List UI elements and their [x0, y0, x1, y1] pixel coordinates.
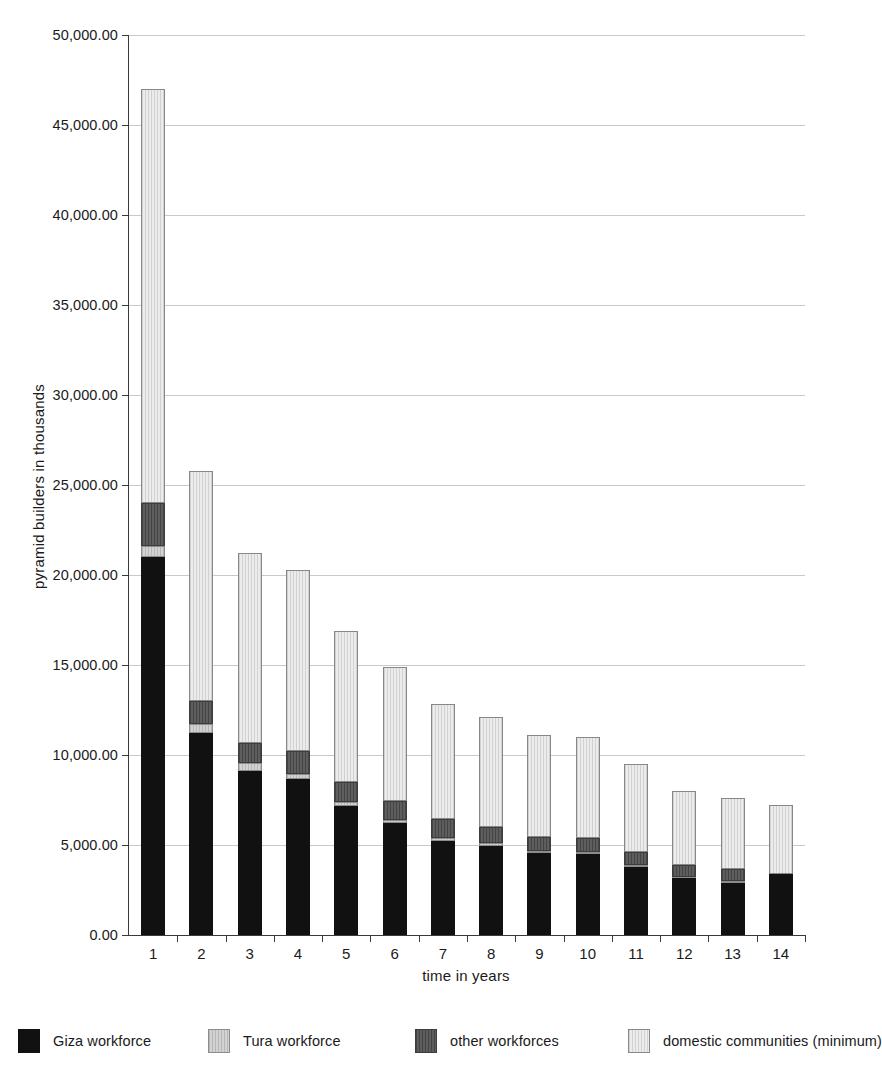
x-tick-label: 8: [487, 945, 495, 962]
bar-segment-domestic[interactable]: [141, 89, 165, 503]
bar-segment-giza[interactable]: [141, 557, 165, 935]
bar-column[interactable]: [431, 35, 455, 935]
bar-segment-giza[interactable]: [527, 853, 551, 935]
y-gridline: [129, 35, 805, 36]
bar-segment-giza[interactable]: [383, 823, 407, 935]
y-tick-mark: [122, 215, 129, 216]
bar-segment-domestic[interactable]: [334, 631, 358, 782]
bar-column[interactable]: [624, 35, 648, 935]
bar-column[interactable]: [721, 35, 745, 935]
y-gridline: [129, 755, 805, 756]
bar-segment-other[interactable]: [624, 852, 648, 865]
x-tick-mark: [515, 935, 516, 942]
other-swatch: [415, 1029, 437, 1053]
bar-segment-domestic[interactable]: [383, 667, 407, 801]
bar-segment-domestic[interactable]: [527, 735, 551, 837]
legend-label: Tura workforce: [243, 1033, 341, 1049]
bar-segment-tura[interactable]: [141, 546, 165, 557]
bar-segment-other[interactable]: [479, 827, 503, 843]
bar-column[interactable]: [334, 35, 358, 935]
bar-segment-giza[interactable]: [672, 878, 696, 935]
x-tick-mark: [419, 935, 420, 942]
bar-segment-giza[interactable]: [286, 779, 310, 935]
legend-item[interactable]: other workforces: [415, 1024, 559, 1058]
bar-segment-domestic[interactable]: [479, 717, 503, 827]
bar-segment-giza[interactable]: [576, 854, 600, 935]
bar-segment-domestic[interactable]: [189, 471, 213, 701]
bar-segment-other[interactable]: [383, 801, 407, 820]
bar-segment-giza[interactable]: [479, 846, 503, 935]
bar-segment-domestic[interactable]: [769, 805, 793, 873]
bar-segment-giza[interactable]: [721, 883, 745, 935]
bar-segment-domestic[interactable]: [238, 553, 262, 743]
legend-label: domestic communities (minimum): [663, 1033, 882, 1049]
bar-segment-tura[interactable]: [721, 881, 745, 883]
legend-item[interactable]: Tura workforce: [208, 1024, 341, 1058]
bar-segment-domestic[interactable]: [624, 764, 648, 852]
bar-column[interactable]: [527, 35, 551, 935]
x-tick-label: 10: [579, 945, 596, 962]
bar-segment-tura[interactable]: [431, 838, 455, 841]
legend-label: other workforces: [450, 1033, 559, 1049]
y-tick-label: 30,000.00: [53, 387, 118, 403]
bar-segment-other[interactable]: [527, 837, 551, 851]
bar-segment-domestic[interactable]: [721, 798, 745, 869]
bar-segment-tura[interactable]: [527, 851, 551, 853]
y-tick-label: 25,000.00: [53, 477, 118, 493]
bar-column[interactable]: [189, 35, 213, 935]
bar-segment-other[interactable]: [141, 503, 165, 546]
bar-segment-other[interactable]: [721, 869, 745, 881]
bar-segment-other[interactable]: [576, 838, 600, 852]
bar-segment-other[interactable]: [334, 782, 358, 802]
bar-column[interactable]: [576, 35, 600, 935]
bar-segment-other[interactable]: [431, 819, 455, 838]
bar-column[interactable]: [672, 35, 696, 935]
legend-item[interactable]: Giza workforce: [18, 1024, 151, 1058]
bar-column[interactable]: [479, 35, 503, 935]
bar-segment-domestic[interactable]: [672, 791, 696, 865]
bar-column[interactable]: [383, 35, 407, 935]
y-tick-label: 5,000.00: [61, 837, 118, 853]
bar-segment-other[interactable]: [286, 751, 310, 774]
bar-segment-giza[interactable]: [334, 806, 358, 935]
bar-segment-other[interactable]: [189, 701, 213, 724]
y-tick-label: 20,000.00: [53, 567, 118, 583]
bar-column[interactable]: [238, 35, 262, 935]
x-tick-label: 14: [773, 945, 790, 962]
bar-segment-giza[interactable]: [769, 874, 793, 935]
y-gridline: [129, 485, 805, 486]
bar-segment-tura[interactable]: [189, 724, 213, 733]
bar-segment-tura[interactable]: [479, 843, 503, 846]
x-tick-label: 12: [676, 945, 693, 962]
x-tick-mark: [805, 935, 806, 942]
bar-segment-domestic[interactable]: [576, 737, 600, 838]
y-tick-mark: [122, 665, 129, 666]
legend-item[interactable]: domestic communities (minimum): [628, 1024, 882, 1058]
bar-column[interactable]: [769, 35, 793, 935]
bar-segment-giza[interactable]: [238, 771, 262, 935]
bar-segment-tura[interactable]: [624, 865, 648, 867]
bar-segment-other[interactable]: [238, 743, 262, 763]
x-tick-mark: [370, 935, 371, 942]
bar-segment-tura[interactable]: [238, 763, 262, 771]
bar-segment-giza[interactable]: [624, 867, 648, 935]
x-tick-label: 11: [628, 945, 644, 962]
bar-segment-domestic[interactable]: [431, 704, 455, 819]
legend-label: Giza workforce: [53, 1033, 151, 1049]
y-tick-mark: [122, 575, 129, 576]
bar-segment-tura[interactable]: [334, 802, 358, 807]
bar-segment-tura[interactable]: [383, 820, 407, 824]
chart-legend: Giza workforceTura workforceother workfo…: [18, 1024, 830, 1058]
x-tick-mark: [757, 935, 758, 942]
y-tick-mark: [122, 35, 129, 36]
bar-segment-domestic[interactable]: [286, 570, 310, 752]
bar-segment-tura[interactable]: [286, 774, 310, 779]
bar-column[interactable]: [141, 35, 165, 935]
bar-column[interactable]: [286, 35, 310, 935]
bar-segment-giza[interactable]: [431, 841, 455, 936]
bar-segment-tura[interactable]: [576, 852, 600, 854]
x-tick-mark: [708, 935, 709, 942]
bar-segment-giza[interactable]: [189, 733, 213, 935]
bar-segment-other[interactable]: [672, 865, 696, 877]
bar-segment-tura[interactable]: [672, 876, 696, 878]
